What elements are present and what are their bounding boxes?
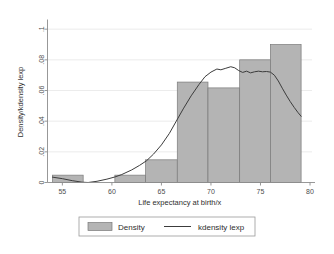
x-tick-label: 80 — [306, 188, 314, 195]
histogram-bar — [270, 45, 301, 183]
x-tick-label: 55 — [58, 188, 66, 195]
chart-legend: Densitykdensity lexp — [79, 217, 255, 236]
y-tick-label: .1 — [38, 26, 45, 32]
legend-swatch-density — [88, 223, 112, 231]
histogram-bar — [240, 60, 271, 183]
y-tick-label: .02 — [38, 147, 45, 157]
chart-figure: 0.02.04.06.08.1 556065707580 Density/kde… — [0, 0, 334, 254]
y-tick-label: 0 — [38, 180, 45, 184]
histogram-bar — [115, 175, 146, 182]
histogram-kdensity-plot: 0.02.04.06.08.1 556065707580 Density/kde… — [0, 0, 334, 254]
x-tick-label: 65 — [158, 188, 166, 195]
y-axis-title: Density/kdensity lexp — [16, 67, 25, 137]
x-tick-label: 70 — [207, 188, 215, 195]
x-tick-label: 75 — [257, 188, 265, 195]
histogram-bar — [146, 160, 178, 183]
y-tick-label: .04 — [38, 116, 45, 126]
x-axis-title: Life expectancy at birth/x — [138, 198, 221, 207]
y-tick-label: .08 — [38, 55, 45, 65]
histogram-bar — [208, 88, 240, 183]
legend-label-kdensity: kdensity lexp — [198, 223, 245, 232]
legend-label-density: Density — [118, 223, 145, 232]
y-tick-label: .06 — [38, 86, 45, 96]
x-tick-label: 60 — [108, 188, 116, 195]
histogram-bar — [177, 82, 208, 182]
